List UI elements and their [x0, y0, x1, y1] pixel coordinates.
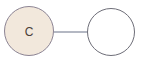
node-empty[interactable]: [88, 9, 135, 56]
node-c-label: C: [25, 25, 34, 39]
node-empty-circle[interactable]: [88, 9, 135, 56]
graph-svg: C: [0, 0, 144, 62]
graph-canvas: C: [0, 0, 144, 62]
node-c[interactable]: C: [5, 7, 54, 56]
